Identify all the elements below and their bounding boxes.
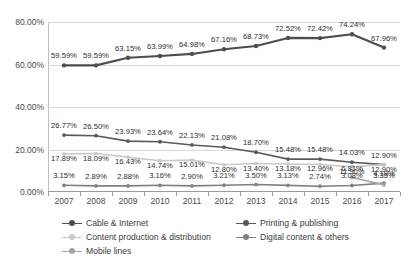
series-marker (62, 63, 66, 67)
series-marker (94, 134, 98, 138)
data-point-label: 2.90% (181, 173, 203, 181)
series-marker (126, 56, 130, 60)
series-marker (158, 140, 162, 144)
series-marker (254, 44, 258, 48)
data-point-label: 3.08% (341, 173, 363, 181)
data-point-label: 63.15% (115, 45, 141, 53)
series-marker (318, 157, 322, 161)
data-point-label: 3.16% (149, 172, 171, 180)
x-axis-tick-label: 2015 (311, 196, 330, 206)
data-point-label: 22.13% (179, 132, 205, 140)
legend-swatch-icon (62, 219, 82, 228)
legend-item[interactable]: Mobile lines (62, 246, 131, 256)
data-point-label: 3.15% (53, 173, 75, 181)
data-point-label: 3.21% (213, 172, 235, 180)
data-point-label: 14.74% (147, 162, 173, 170)
series-marker (286, 36, 290, 40)
data-point-label: 72.52% (275, 25, 301, 33)
x-axis-tick-label: 2011 (183, 196, 201, 206)
data-point-label: 6.81% (341, 165, 363, 173)
series-marker (62, 183, 66, 187)
data-point-label: 26.77% (51, 122, 77, 130)
legend-item[interactable]: Cable & Internet (62, 218, 148, 228)
x-axis-tick-label: 2008 (87, 196, 106, 206)
x-axis-tick-label: 2010 (151, 196, 170, 206)
series-marker (286, 183, 290, 187)
series-marker (382, 183, 386, 187)
series-marker (158, 183, 162, 187)
x-axis-tick-label: 2014 (279, 196, 298, 206)
x-axis-tick-label: 2009 (119, 196, 138, 206)
y-axis-tick-label: 60.00% (15, 60, 44, 70)
x-axis-tick-label: 2007 (55, 196, 74, 206)
legend-item-label: Content production & distribution (86, 232, 211, 242)
series-marker (190, 143, 194, 147)
x-axis-tick-label: 2017 (375, 196, 394, 206)
series-marker (190, 184, 194, 188)
chart-container: 0.00%20.00%40.00%60.00%80.00% 59.59%59.5… (0, 0, 420, 270)
series-marker (126, 139, 130, 143)
series-marker (222, 183, 226, 187)
legend-swatch-icon (62, 247, 82, 256)
data-point-label: 3.50% (245, 172, 267, 180)
legend-swatch-icon (236, 219, 256, 228)
series-marker (62, 133, 66, 137)
data-point-label: 18.70% (243, 139, 269, 147)
y-axis-tick-label: 20.00% (15, 145, 44, 155)
series-marker (126, 184, 130, 188)
series-marker (318, 184, 322, 188)
series-marker (190, 52, 194, 56)
y-axis-tick-label: 80.00% (15, 17, 44, 27)
data-point-label: 16.43% (115, 158, 141, 166)
data-point-label: 67.16% (211, 36, 237, 44)
series-marker (158, 54, 162, 58)
chart-legend: Cable & InternetContent production & dis… (40, 218, 400, 266)
data-point-label: 23.64% (147, 129, 173, 137)
data-point-label: 26.50% (83, 123, 109, 131)
data-point-label: 2.74% (309, 173, 331, 181)
data-point-label: 2.88% (117, 173, 139, 181)
data-point-label: 64.98% (179, 41, 205, 49)
series-marker (350, 184, 354, 188)
series-marker (94, 63, 98, 67)
data-point-label: 15.48% (307, 146, 333, 154)
data-point-label: 18.09% (83, 155, 109, 163)
data-point-label: 12.90% (371, 152, 397, 160)
data-point-label: 3.35% (373, 172, 395, 180)
x-axis-tick-label: 2012 (215, 196, 234, 206)
series-marker (254, 183, 258, 187)
data-point-label: 72.42% (307, 25, 333, 33)
data-point-label: 59.59% (83, 53, 109, 61)
series-marker (382, 45, 386, 49)
data-point-label: 2.89% (85, 173, 107, 181)
x-axis-tickmark (400, 192, 401, 196)
data-point-label: 68.73% (243, 33, 269, 41)
legend-item-label: Cable & Internet (86, 218, 148, 228)
series-marker (350, 32, 354, 36)
legend-swatch-icon (62, 233, 82, 242)
data-point-label: 59.59% (51, 53, 77, 61)
plot-area: 59.59%59.59%63.15%63.99%64.98%67.16%68.7… (48, 22, 400, 192)
series-marker (94, 184, 98, 188)
legend-swatch-icon (236, 233, 256, 242)
data-point-label: 15.48% (275, 146, 301, 154)
data-point-label: 23.93% (115, 128, 141, 136)
y-axis-labels: 0.00%20.00%40.00%60.00%80.00% (0, 22, 44, 192)
x-axis-tick-label: 2013 (247, 196, 266, 206)
series-marker (254, 150, 258, 154)
series-marker (222, 145, 226, 149)
legend-item[interactable]: Digital content & others (236, 232, 349, 242)
y-axis-tick-label: 40.00% (15, 102, 44, 112)
legend-item[interactable]: Content production & distribution (62, 232, 211, 242)
x-axis-tick-label: 2016 (343, 196, 362, 206)
legend-item-label: Printing & publishing (260, 218, 338, 228)
series-marker (222, 47, 226, 51)
series-marker (318, 36, 322, 40)
data-point-label: 14.03% (339, 149, 365, 157)
legend-item-label: Digital content & others (260, 232, 349, 242)
legend-item[interactable]: Printing & publishing (236, 218, 338, 228)
x-axis-labels: 2007200820092010201120122013201420152016… (48, 196, 400, 210)
legend-item-label: Mobile lines (86, 246, 131, 256)
data-point-label: 17.89% (51, 155, 77, 163)
data-point-label: 21.08% (211, 134, 237, 142)
